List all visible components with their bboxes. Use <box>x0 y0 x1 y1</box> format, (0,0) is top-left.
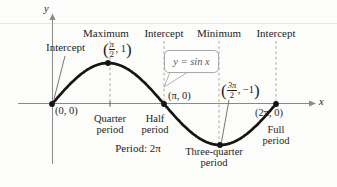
half-period-label: Half period <box>133 114 177 135</box>
point-label-2pi: (2π, 0) <box>247 107 291 119</box>
point-label-maximum: (π2, 1) <box>103 40 131 59</box>
feature-label-intercept-origin: Intercept <box>46 41 85 53</box>
three-quarter-period-label: Three-quarter period <box>176 147 252 168</box>
total-period-label: Period: 2π <box>108 142 168 154</box>
point-label-minimum: (3π2, −1) <box>221 81 259 100</box>
data-point-dot <box>161 101 167 107</box>
feature-label-intercept-mid: Intercept <box>136 27 192 39</box>
sine-graph-figure: y x Maximum Intercept Minimum Intercept … <box>0 0 337 187</box>
equation-callout: y = sin x <box>164 50 219 73</box>
data-point-dot <box>105 60 111 66</box>
x-axis-label: x <box>319 97 324 108</box>
quarter-period-label: Quarter period <box>88 114 132 135</box>
x-axis-arrow-icon <box>309 100 316 106</box>
feature-label-maximum: Maximum <box>78 27 134 39</box>
leader-minimum-label <box>222 100 230 142</box>
y-axis-label: y <box>44 4 49 15</box>
point-label-origin: (0, 0) <box>55 105 78 117</box>
y-axis-arrow-icon <box>49 14 55 21</box>
feature-label-minimum: Minimum <box>191 27 247 39</box>
feature-label-intercept-right: Intercept <box>248 27 304 39</box>
point-label-pi: (π, 0) <box>168 90 191 102</box>
equation-text: y = sin x <box>173 56 210 67</box>
full-period-label: Full period <box>255 125 297 146</box>
